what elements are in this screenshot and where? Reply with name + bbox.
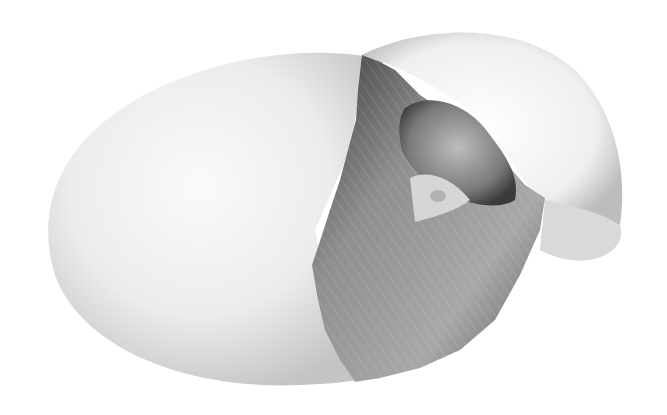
hatching-egg-illustration (0, 0, 667, 415)
